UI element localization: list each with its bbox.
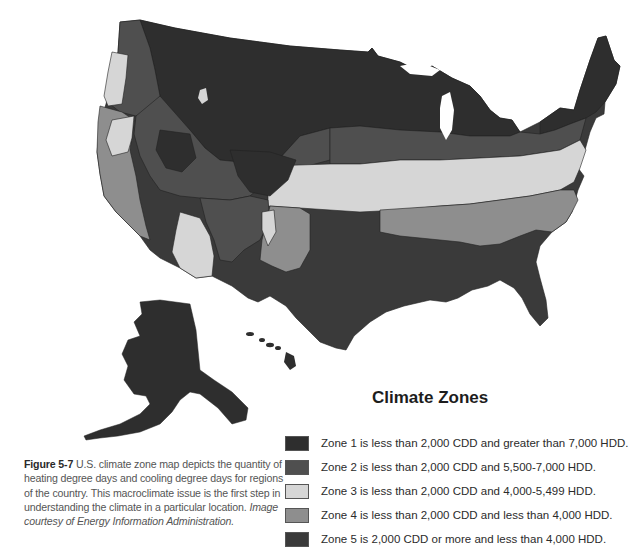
legend-title: Climate Zones [372, 388, 488, 408]
figure-caption: Figure 5-7 U.S. climate zone map depicts… [24, 457, 286, 528]
zone1-northeast [540, 36, 620, 134]
legend-item-zone-4: Zone 4 is less than 2,000 CDD and less t… [285, 504, 628, 526]
swatch-zone-5 [285, 532, 309, 547]
swatch-zone-1 [285, 436, 309, 451]
legend-item-zone-3: Zone 3 is less than 2,000 CDD and 4,000-… [285, 480, 628, 502]
legend-item-zone-5: Zone 5 is 2,000 CDD or more and less tha… [285, 528, 628, 550]
hawaii [246, 332, 296, 370]
legend-label: Zone 1 is less than 2,000 CDD and greate… [321, 437, 628, 449]
legend-label: Zone 3 is less than 2,000 CDD and 4,000-… [321, 485, 596, 497]
swatch-zone-4 [285, 508, 309, 523]
contiguous-us [97, 20, 620, 350]
swatch-zone-3 [285, 484, 309, 499]
legend: Zone 1 is less than 2,000 CDD and greate… [285, 432, 628, 552]
legend-label: Zone 2 is less than 2,000 CDD and 5,500-… [321, 461, 596, 473]
legend-label: Zone 4 is less than 2,000 CDD and less t… [321, 509, 613, 521]
figure-label: Figure 5-7 [24, 458, 73, 470]
legend-item-zone-2: Zone 2 is less than 2,000 CDD and 5,500-… [285, 456, 628, 478]
legend-item-zone-1: Zone 1 is less than 2,000 CDD and greate… [285, 432, 628, 454]
alaska [84, 300, 248, 440]
swatch-zone-2 [285, 460, 309, 475]
legend-label: Zone 5 is 2,000 CDD or more and less tha… [321, 533, 606, 545]
